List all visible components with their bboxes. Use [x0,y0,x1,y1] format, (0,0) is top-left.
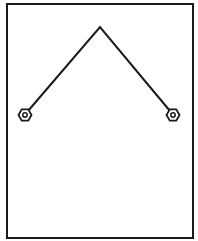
hex-nut-icon [167,109,180,120]
right-terminal [167,109,180,120]
panel-diagram [0,0,198,241]
left-terminal [19,109,32,120]
v-wire [28,27,170,111]
panel-frame [7,4,193,238]
hex-nut-icon [19,109,32,120]
terminals-group [19,109,180,120]
diagram-canvas [0,0,198,241]
